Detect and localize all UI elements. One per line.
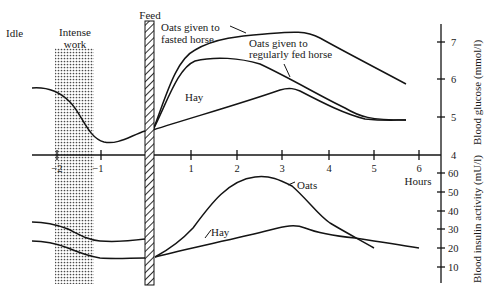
insulin-tick-label: 60 [448,168,459,179]
hay-glucose-label: Hay [185,91,204,103]
insulin-tick-label: 20 [448,243,459,254]
x-tick-label: 3 [279,163,284,174]
oats-insulin-leader [288,182,295,185]
x-tick-label: 2 [234,163,239,174]
x-axis-label: Hours [405,175,432,187]
regular-leader [284,64,290,77]
x-tick-label: 5 [371,163,376,174]
x-tick-label: −1 [92,163,103,174]
x-tick-label: 1 [188,163,193,174]
insulin-oats-curve [155,177,374,257]
oats-fasted-label-2: fasted horse [161,33,214,45]
oats-regular-label-2: regularly fed horse [249,48,332,60]
hay-insulin-label: Hay [211,226,230,238]
insulin-tick-label: 10 [448,262,459,273]
insulin-tick-label: 50 [448,187,459,198]
insulin-tick-label: 40 [448,206,459,217]
x-tick-label: 6 [416,163,421,174]
oats-insulin-label: Oats [297,179,317,191]
glucose-tick-label: 5 [451,112,456,123]
x-tick-label: 4 [326,163,332,174]
insulin-axis-title: Blood insulin activity (mU/l) [471,155,484,283]
intense-label: Intense [59,26,91,38]
oats-fasted-label-1: Oats given to [161,21,220,33]
feed-bar [145,21,154,285]
glucose-tick-label: 7 [451,37,456,48]
glucose-tick-label: 6 [451,74,456,85]
insulin-hay-curve [155,226,419,257]
glucose-tick-label: 4 [451,150,457,161]
glucose-axis-title: Blood glucose (mmol/l) [471,40,484,145]
x-tick-labels: −2 −1 1 2 3 4 5 6 [51,163,421,174]
fasted-leader [230,26,246,33]
insulin-tick-label: 30 [448,224,459,235]
x-tick-label: −2 [51,163,62,174]
idle-label: Idle [6,27,23,39]
feed-label: Feed [139,9,161,21]
work-label: work [64,38,87,50]
glucose-insulin-chart: −2 −1 1 2 3 4 5 6 Hours 7 6 5 4 60 50 40… [0,0,487,295]
